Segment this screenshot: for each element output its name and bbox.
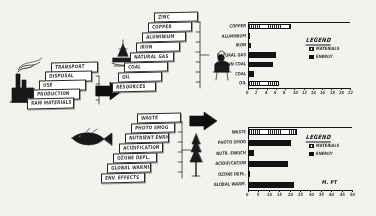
- x-tick-label: 30: [308, 192, 314, 197]
- x-tick-label: 40: [329, 192, 335, 197]
- chart1-top-rule: [248, 127, 352, 128]
- chart1-legend: LEGEND MATERIALS ENERGY: [307, 133, 373, 163]
- bar-ozone-depl: [248, 171, 250, 177]
- chart1-legend-item-materials[interactable]: MATERIALS: [309, 144, 339, 148]
- bar-acidification: [248, 161, 288, 167]
- x-tick-label: 45: [340, 192, 346, 197]
- bar-global-warm: [248, 182, 294, 188]
- chart1-x-axis-unit: M. PT: [322, 180, 338, 186]
- category-label: GLOBAL WARM.: [202, 182, 247, 188]
- materials-swatch-icon: [309, 144, 314, 148]
- x-tick-label: 15: [277, 192, 283, 197]
- chart1-legend-label: ENERGY: [316, 152, 333, 157]
- x-tick-label: 50: [350, 192, 356, 197]
- category-label: PHOTO SMOG: [202, 140, 247, 146]
- bar-nutr-enrich: [248, 150, 254, 156]
- x-tick-label: 0: [246, 192, 249, 197]
- chart1-legend-title: LEGEND: [306, 133, 332, 142]
- chart1-legend-label: MATERIALS: [316, 144, 340, 149]
- chart1-legend-item-energy[interactable]: ENERGY: [309, 152, 333, 156]
- x-tick-label: 25: [298, 192, 304, 197]
- energy-swatch-icon: [309, 152, 314, 156]
- environmental-effects-chart: WASTEPHOTO SMOGNUTR. ENRICHACIDIFICATION…: [0, 0, 376, 216]
- bar-waste: [248, 129, 297, 135]
- category-label: OZONE DEPL.: [202, 171, 247, 177]
- chart1-y-axis: [248, 127, 249, 190]
- x-tick-label: 35: [319, 192, 325, 197]
- x-tick-label: 5: [256, 192, 259, 197]
- x-tick-label: 20: [288, 192, 294, 197]
- bar-photo-smog: [248, 140, 291, 146]
- category-label: WASTE: [202, 129, 247, 135]
- x-tick-label: 10: [267, 192, 273, 197]
- category-label: ACIDIFICATION: [202, 161, 247, 167]
- category-label: NUTR. ENRICH: [202, 150, 247, 156]
